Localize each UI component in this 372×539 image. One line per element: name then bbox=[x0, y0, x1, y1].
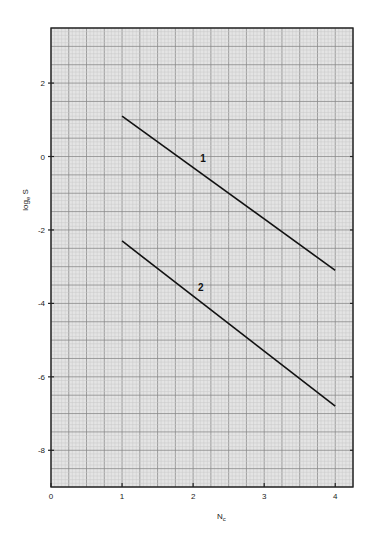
y-axis-label-main: log bbox=[21, 200, 30, 211]
x-tick-label: 4 bbox=[333, 492, 338, 501]
x-axis-label-sub: c bbox=[223, 516, 226, 522]
y-tick-label: 0 bbox=[41, 153, 46, 162]
x-tick-label: 2 bbox=[191, 492, 196, 501]
x-tick-label: 0 bbox=[49, 492, 54, 501]
x-axis-label: Nc bbox=[217, 512, 226, 522]
y-axis-label-suffix: S bbox=[21, 189, 30, 197]
y-tick-label: 2 bbox=[41, 79, 46, 88]
y-axis-label: loge S bbox=[21, 189, 31, 211]
y-tick-label: -8 bbox=[38, 446, 46, 455]
x-tick-label: 1 bbox=[120, 492, 125, 501]
series-label-1: 1 bbox=[200, 153, 206, 164]
x-tick-label: 3 bbox=[262, 492, 267, 501]
y-tick-label: -4 bbox=[38, 299, 46, 308]
y-tick-label: -2 bbox=[38, 226, 46, 235]
chart: 12 01234 20-2-4-6-8 Nc loge S bbox=[0, 0, 372, 539]
series-label-2: 2 bbox=[198, 282, 204, 293]
y-tick-label: -6 bbox=[38, 373, 46, 382]
plot-background bbox=[51, 28, 353, 487]
